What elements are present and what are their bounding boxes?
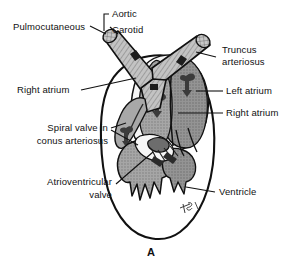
label-ventricle: Ventricle [219, 186, 256, 197]
label-right-atrium-left: Right atrium [17, 84, 69, 95]
label-pulmocutaneous: Pulmocutaneous [13, 21, 85, 32]
label-atrioventricular-valve-line2: valve [2, 189, 112, 200]
label-atrioventricular-valve-line1: Atrioventricular [2, 176, 112, 187]
label-truncus-arteriosus-line2: arteriosus [222, 56, 265, 67]
figure-panel-letter: A [147, 246, 155, 258]
label-truncus-arteriosus-line1: Truncus [222, 44, 257, 55]
label-carotid: Carotid [112, 24, 143, 35]
label-spiral-valve-line2: conus arteriosus [2, 135, 108, 146]
label-aortic: Aortic [112, 8, 137, 19]
label-left-atrium: Left atrium [226, 85, 272, 96]
label-spiral-valve-line1: Spiral valve in [2, 122, 108, 133]
label-right-atrium-right: Right atrium [226, 107, 278, 118]
